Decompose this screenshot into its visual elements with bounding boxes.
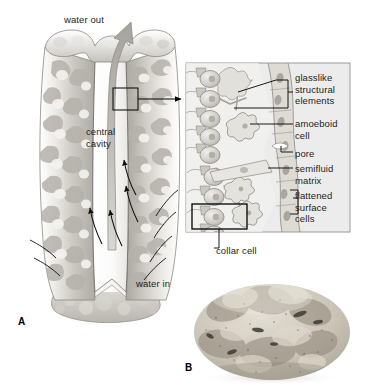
label-flattened-surface-cells: flattened surface cells [295,190,332,225]
amoeboid-nucleus-2 [239,187,244,192]
spicule-cluster-upper [216,67,251,100]
label-collar-cell: collar cell [216,245,257,257]
label-water-in: water in [136,278,170,290]
pore-opening [272,143,288,149]
panel-letter-a: A [18,316,25,327]
amoeboid-nucleus-1 [242,123,247,128]
canal-nucleus [240,167,248,173]
panel-letter-b: B [185,362,192,373]
label-amoeboid-cell: amoeboid cell [295,118,338,141]
label-glasslike-structural-elements: glasslike structural elements [295,72,335,107]
label-pore: pore [295,148,314,160]
label-semifluid-matrix: semifluid matrix [295,163,333,186]
label-water-out: water out [64,14,104,26]
inset-contents [185,63,300,242]
panel-b-sponge-photograph [194,281,352,390]
label-central-cavity: central cavity [86,126,115,149]
